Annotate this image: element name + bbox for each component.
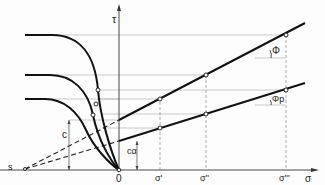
diagram-graphics: [0, 0, 325, 185]
angle-phi-label: Φ: [272, 46, 280, 56]
tau-axis-arrow-icon: [117, 4, 121, 11]
peak-envelope: [119, 23, 305, 120]
angle-phi-p-label: Φp: [272, 95, 284, 104]
sigma-axis-arrow-icon: [311, 168, 319, 172]
sigma-tick-3: σ''': [279, 174, 290, 183]
stress-strain-curves: [25, 35, 119, 170]
sigma-axis-label: σ: [305, 174, 311, 184]
tau-axis-label: τ: [112, 14, 116, 25]
cohesion-p-label: cα: [127, 147, 137, 156]
residual-envelope: [119, 83, 305, 141]
cohesion-label: c: [62, 130, 67, 140]
sigma-dashed-verticals: [160, 35, 286, 170]
origin-label: 0: [116, 174, 122, 184]
failure-envelopes: [119, 23, 305, 141]
sigma-tick-2: σ'': [200, 174, 209, 183]
curve-mid: [25, 75, 119, 170]
sigma-tick-1: σ': [155, 174, 162, 183]
construction-lines: [25, 35, 286, 128]
mohr-coulomb-diagram: τ σ 0 σ' σ'' σ''' s c cα Φ Φp: [0, 0, 325, 185]
curve-low: [25, 99, 119, 170]
point-s-label: s: [8, 163, 13, 172]
